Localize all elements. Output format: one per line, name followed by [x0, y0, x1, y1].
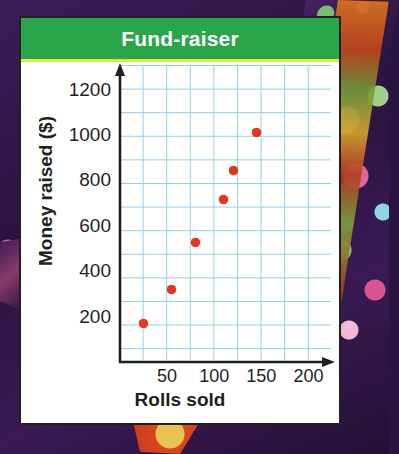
y-tick-label: 1000	[51, 124, 111, 146]
y-tick-label: 600	[51, 215, 111, 237]
x-axis-title: Rolls sold	[21, 389, 339, 411]
y-tick-label: 1200	[51, 79, 111, 101]
y-tick-label: 200	[51, 306, 111, 328]
y-tick-label: 800	[51, 169, 111, 191]
y-tick-label: 400	[51, 260, 111, 282]
x-tick-label: 150	[239, 366, 283, 387]
chart-grid	[119, 65, 331, 360]
x-tick-label: 50	[145, 366, 189, 387]
chart-title-banner: Fund-raiser	[21, 18, 339, 62]
data-point	[229, 166, 238, 175]
data-point	[139, 319, 148, 328]
chart-card: Fund-raiser Money raised ($) 12001000800…	[19, 16, 341, 425]
x-tick-label: 100	[192, 366, 236, 387]
chart-title: Fund-raiser	[121, 27, 239, 51]
x-tick-label: 200	[286, 366, 330, 387]
plot-area: Money raised ($) 12001000800600400200 50…	[21, 62, 339, 424]
